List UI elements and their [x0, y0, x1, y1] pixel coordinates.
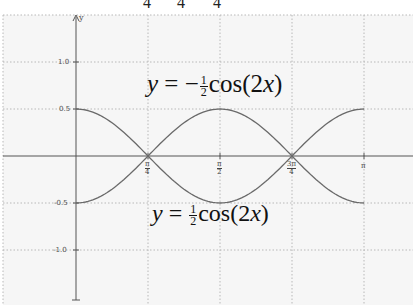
x-tick-label: 3π4 — [287, 161, 296, 176]
chart: 4 4 4 — [0, 0, 413, 305]
y-tick-label: 1.0 — [58, 58, 69, 66]
x-tick-label: π4 — [145, 161, 150, 176]
y-tick-label: -1.0 — [53, 246, 67, 254]
x-tick-label: π — [361, 163, 366, 170]
y-tick-label: -0.5 — [54, 199, 68, 207]
y-tick-label: 0.5 — [59, 105, 70, 113]
equation-top: y = −12cos(2x) — [147, 70, 282, 98]
y-axis-label: y — [79, 13, 84, 22]
plot-area — [0, 0, 413, 305]
equation-bottom: y = 12cos(2x) — [152, 200, 269, 227]
x-tick-label: π2 — [217, 161, 222, 176]
